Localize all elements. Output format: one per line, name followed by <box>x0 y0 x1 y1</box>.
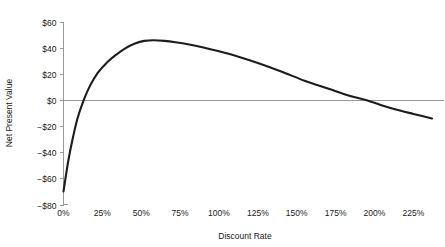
x-tick-label: 100% <box>208 208 230 218</box>
y-tick-label: −$20 <box>37 122 56 132</box>
chart-canvas: $60$40$20$0−$20−$40−$60−$80 0%25%50%75%1… <box>0 0 445 247</box>
x-tick-label: 150% <box>286 208 308 218</box>
x-tick-label: 125% <box>247 208 269 218</box>
y-tick-label: −$60 <box>37 174 56 184</box>
y-tick-label: $20 <box>42 70 56 80</box>
x-tick-label: 25% <box>94 208 111 218</box>
y-tick-label: $0 <box>47 96 57 106</box>
y-tick-label: −$80 <box>37 201 56 211</box>
x-tick-label: 50% <box>133 208 150 218</box>
npv-curve <box>64 40 433 191</box>
x-tick-label: 200% <box>364 208 386 218</box>
x-tick-label: 175% <box>325 208 347 218</box>
npv-profile-chart: $60$40$20$0−$20−$40−$60−$80 0%25%50%75%1… <box>0 0 445 247</box>
x-axis-title: Discount Rate <box>218 231 272 241</box>
y-axis-ticks <box>60 23 64 206</box>
x-tick-label: 0% <box>57 208 70 218</box>
x-tick-label: 225% <box>402 208 424 218</box>
y-tick-label: $60 <box>42 18 56 28</box>
x-tick-label: 75% <box>172 208 189 218</box>
y-tick-label: −$40 <box>37 148 56 158</box>
y-axis-tick-labels: $60$40$20$0−$20−$40−$60−$80 <box>37 18 56 211</box>
y-tick-label: $40 <box>42 44 56 54</box>
y-axis-title: Net Present Value <box>4 79 14 148</box>
x-axis-tick-labels: 0%25%50%75%100%125%150%175%200%225% <box>57 208 424 218</box>
